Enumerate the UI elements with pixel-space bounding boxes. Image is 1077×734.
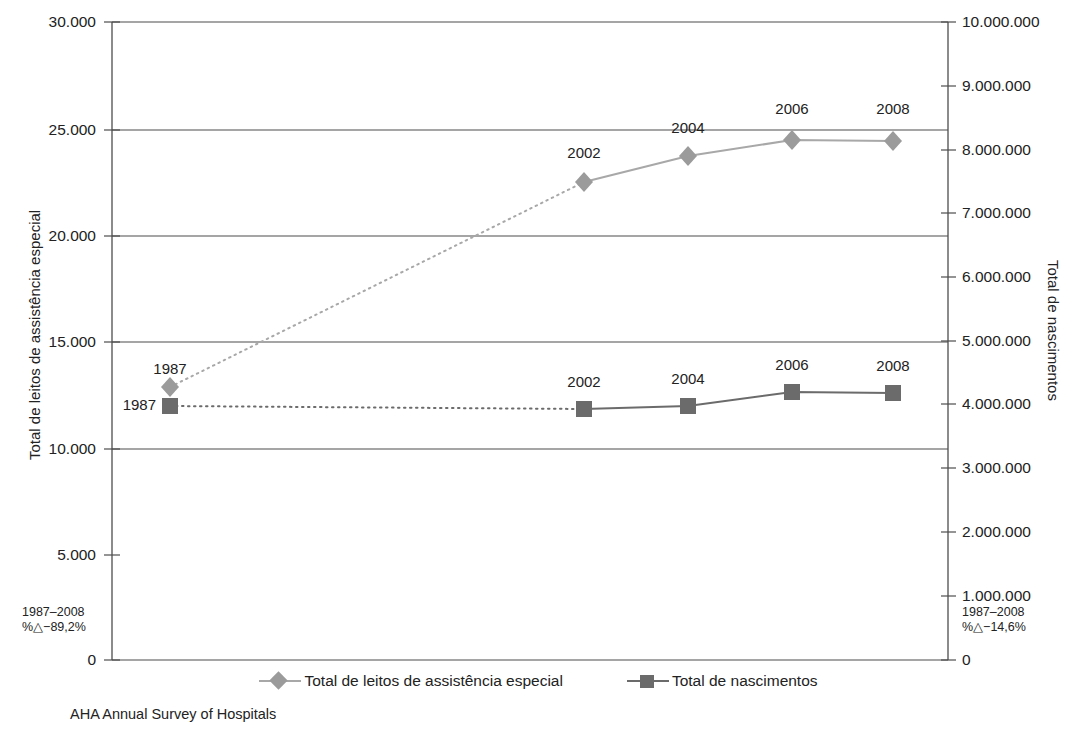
left-tick-label-5000: 5.000 (0, 546, 96, 564)
right-axis-title: Total de nascimentos (1045, 260, 1062, 401)
right-tick-label-2000000: 2.000.000 (962, 523, 1031, 541)
point-label-nascimentos-2006: 2006 (744, 356, 840, 373)
gridlines (112, 22, 948, 660)
right-tick-label-0: 0 (962, 651, 971, 669)
legend-label-nascimentos: Total de nascimentos (672, 672, 818, 690)
point-label-leitos-2006: 2006 (744, 100, 840, 117)
right-tick-label-9000000: 9.000.000 (962, 77, 1031, 95)
point-label-leitos-2004: 2004 (640, 119, 736, 136)
right-tick-label-8000000: 8.000.000 (962, 141, 1031, 159)
source-note: AHA Annual Survey of Hospitals (70, 706, 276, 722)
right-tick-label-1000000: 1.000.000 (962, 587, 1031, 605)
right-tick-label-5000000: 5.000.000 (962, 332, 1031, 350)
series-leitos-line (170, 140, 893, 387)
square-marker-icon (627, 673, 669, 689)
axis-spines (112, 22, 948, 660)
chart-legend: Total de leitos de assistência especial … (0, 672, 1077, 690)
legend-item-leitos[interactable]: Total de leitos de assistência especial (259, 672, 562, 690)
point-label-nascimentos-2004: 2004 (640, 370, 736, 387)
right-tick-label-7000000: 7.000.000 (962, 204, 1031, 222)
diamond-marker-icon (259, 673, 301, 689)
series-nascimentos-markers (162, 384, 901, 417)
left-change-value: %△−89,2% (22, 620, 86, 635)
point-label-leitos-2002: 2002 (536, 144, 632, 161)
right-change-value: %△−14,6% (962, 620, 1026, 635)
chart-figure: Total de leitos de assistência especial … (0, 0, 1077, 734)
right-tick-label-3000000: 3.000.000 (962, 459, 1031, 477)
right-tick-label-4000000: 4.000.000 (962, 395, 1031, 413)
left-tick-label-25000: 25.000 (0, 121, 96, 139)
right-tick-label-6000000: 6.000.000 (962, 268, 1031, 286)
point-label-nascimentos-2002: 2002 (536, 373, 632, 390)
left-tick-label-20000: 20.000 (0, 227, 96, 245)
left-change-period: 1987–2008 (22, 605, 85, 620)
point-label-nascimentos-2008: 2008 (845, 357, 941, 374)
left-tick-label-0: 0 (0, 651, 96, 669)
right-change-period: 1987–2008 (962, 605, 1025, 620)
right-tick-label-10000000: 10.000.000 (962, 13, 1040, 31)
point-label-nascimentos-1987: 1987 (60, 396, 156, 413)
left-tick-label-10000: 10.000 (0, 440, 96, 458)
point-label-leitos-1987: 1987 (122, 360, 218, 377)
left-tick-label-15000: 15.000 (0, 333, 96, 351)
left-tick-label-30000: 30.000 (0, 13, 96, 31)
point-label-leitos-2008: 2008 (845, 100, 941, 117)
legend-item-nascimentos[interactable]: Total de nascimentos (627, 672, 818, 690)
legend-label-leitos: Total de leitos de assistência especial (304, 672, 562, 690)
